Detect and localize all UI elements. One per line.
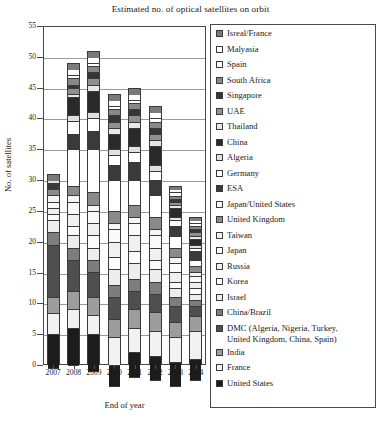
legend-item[interactable]: China xyxy=(216,137,371,153)
bar-segment xyxy=(109,166,120,181)
bar-segment xyxy=(68,329,79,366)
y-axis-tick xyxy=(37,149,43,150)
y-axis-labels: 0510152025303540455055 xyxy=(9,0,36,426)
legend-label: Spain xyxy=(227,59,247,70)
legend-item[interactable]: South Africa xyxy=(216,75,371,91)
legend-item[interactable]: Malyasia xyxy=(216,44,371,60)
bar-2007[interactable] xyxy=(47,174,60,365)
x-tick-label-2014: 2014 xyxy=(184,368,208,377)
bar-2011[interactable] xyxy=(128,88,141,365)
legend-label: France xyxy=(227,362,250,373)
y-tick-label: 10 xyxy=(16,299,36,307)
bar-segment xyxy=(129,329,140,354)
bar-2009[interactable] xyxy=(87,51,100,365)
bar-segment xyxy=(190,332,201,360)
legend-item[interactable]: DMC (Algeria, Nigeria, Turkey, United Ki… xyxy=(216,323,371,347)
bar-segment xyxy=(109,286,120,298)
legend-swatch-icon xyxy=(216,278,223,285)
bar-segment xyxy=(68,227,79,236)
legend-item[interactable]: Thailand xyxy=(216,121,371,137)
legend-item[interactable]: Taiwan xyxy=(216,230,371,246)
y-tick-label: 30 xyxy=(16,176,36,184)
bar-segment xyxy=(129,153,140,162)
legend-item[interactable]: India xyxy=(216,347,371,363)
legend-item[interactable]: Algeria xyxy=(216,152,371,168)
bar-segment xyxy=(68,215,79,227)
y-tick-label: 15 xyxy=(16,269,36,277)
y-axis-tick xyxy=(37,334,43,335)
bar-2013[interactable] xyxy=(169,186,182,365)
legend-item[interactable]: Korea xyxy=(216,276,371,292)
bar-segment xyxy=(170,273,181,282)
legend-swatch-icon xyxy=(216,170,223,177)
legend-swatch-icon xyxy=(216,46,223,53)
bar-segment xyxy=(109,338,120,366)
legend-item[interactable]: Isreal/France xyxy=(216,28,371,44)
bar-2014[interactable] xyxy=(189,217,202,365)
bar-2008[interactable] xyxy=(67,63,80,365)
y-axis-tick xyxy=(37,365,43,366)
legend-item[interactable]: Spain xyxy=(216,59,371,75)
legend-swatch-icon xyxy=(216,364,223,371)
legend-swatch-icon xyxy=(216,294,223,301)
bar-segment xyxy=(109,258,120,270)
chart-container: Estimated no. of optical satellites on o… xyxy=(0,0,381,426)
legend-item[interactable]: ESA xyxy=(216,183,371,199)
bar-segment xyxy=(88,212,99,224)
legend-label: Isreal/France xyxy=(227,28,272,39)
legend-label: Japan/United States xyxy=(227,199,295,210)
legend-swatch-icon xyxy=(216,139,223,146)
bar-segment xyxy=(170,298,181,307)
legend-item[interactable]: Singapore xyxy=(216,90,371,106)
bar-segment xyxy=(88,224,99,236)
legend-label: ESA xyxy=(227,183,243,194)
legend-label: Thailand xyxy=(227,121,258,132)
x-axis-labels: 20072008200920102011201220132014 xyxy=(25,368,225,382)
legend-label: UAE xyxy=(227,106,245,117)
bar-segment xyxy=(150,295,161,313)
bar-2012[interactable] xyxy=(149,106,162,365)
bar-segment xyxy=(150,172,161,181)
legend-item[interactable]: France xyxy=(216,362,371,378)
bar-segment xyxy=(150,236,161,248)
legend-swatch-icon xyxy=(216,232,223,239)
bar-2010[interactable] xyxy=(108,94,121,365)
legend-swatch-icon xyxy=(216,108,223,115)
bar-segment xyxy=(150,147,161,165)
bar-segment xyxy=(129,163,140,181)
legend-label: South Africa xyxy=(227,75,271,86)
legend-item[interactable]: China/Brazil xyxy=(216,307,371,323)
legend-label: China xyxy=(227,137,248,148)
legend-swatch-icon xyxy=(216,309,223,316)
y-axis-title: No. of satellites xyxy=(3,105,13,225)
bar-segment xyxy=(68,261,79,292)
legend-swatch-icon xyxy=(216,201,223,208)
legend-label: Israel xyxy=(227,292,246,303)
legend-item[interactable]: Israel xyxy=(216,292,371,308)
legend-item[interactable]: Japan/United States xyxy=(216,199,371,215)
bar-segment xyxy=(88,92,99,114)
bar-segment xyxy=(48,246,59,298)
legend-item[interactable]: UAE xyxy=(216,106,371,122)
legend-item[interactable]: United States xyxy=(216,378,371,394)
bar-segment xyxy=(150,283,161,295)
bar-segment xyxy=(68,236,79,248)
legend-item[interactable]: Germany xyxy=(216,168,371,184)
y-axis-tick xyxy=(37,180,43,181)
bar-segment xyxy=(109,212,120,224)
bar-segment xyxy=(190,252,201,261)
bar-segment xyxy=(170,209,181,218)
bar-segment xyxy=(150,261,161,270)
y-axis-tick xyxy=(37,303,43,304)
legend-label: Singapore xyxy=(227,90,262,101)
legend-label: Korea xyxy=(227,276,248,287)
legend-item[interactable]: Japan xyxy=(216,245,371,261)
y-tick-label: 5 xyxy=(16,330,36,338)
bar-segment xyxy=(68,292,79,310)
bar-segment xyxy=(48,314,59,336)
bar-segment xyxy=(129,264,140,279)
legend-item[interactable]: Russia xyxy=(216,261,371,277)
legend-item[interactable]: United Kingdom xyxy=(216,214,371,230)
y-tick-label: 35 xyxy=(16,145,36,153)
y-tick-label: 50 xyxy=(16,53,36,61)
